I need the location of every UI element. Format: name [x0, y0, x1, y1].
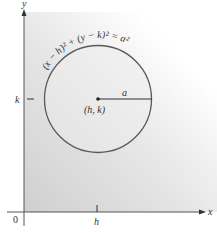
center-label: (h, k): [84, 104, 106, 116]
k-label: k: [15, 94, 20, 105]
h-label: h: [94, 216, 99, 227]
diagram-svg: y x 0 h k (h, k) a (x − h)² + (y − k)² =…: [0, 0, 217, 233]
center-point: [96, 97, 100, 101]
y-axis-label: y: [21, 0, 27, 9]
origin-label: 0: [13, 214, 18, 225]
circle-equation-diagram: y x 0 h k (h, k) a (x − h)² + (y − k)² =…: [0, 0, 217, 233]
x-axis-label: x: [207, 206, 213, 217]
radius-label: a: [122, 87, 127, 98]
